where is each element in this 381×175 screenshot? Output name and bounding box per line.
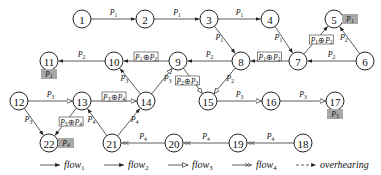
- edge-label: P2: [339, 33, 348, 43]
- svg-text:9: 9: [175, 56, 181, 68]
- edge-label: P4: [201, 132, 210, 142]
- svg-text:19: 19: [233, 138, 245, 150]
- svg-text:8: 8: [238, 56, 244, 68]
- edge-label: P2: [225, 74, 234, 84]
- node-3: 3: [200, 10, 218, 28]
- node-19: 19: [229, 134, 247, 152]
- node-4: 4: [261, 10, 279, 28]
- svg-text:P1 ⊕P2: P1 ⊕P2: [258, 53, 281, 63]
- svg-text:P3 ⊕P4: P3 ⊕P4: [102, 93, 125, 103]
- legend-label-flow1: flow1: [64, 159, 84, 171]
- edge-label: P2: [327, 50, 336, 60]
- svg-text:4: 4: [267, 14, 273, 26]
- network-coding-diagram: P1 P1 P1 P1 P1 P1 ⊕P2 P2 P2 P1 ⊕P2 P2 P2…: [0, 0, 381, 175]
- svg-text:20: 20: [169, 138, 181, 150]
- svg-text:21: 21: [107, 138, 118, 150]
- edge-label: P4: [266, 132, 275, 142]
- svg-text:11: 11: [44, 56, 55, 68]
- node-10: 10: [105, 52, 123, 70]
- svg-text:17: 17: [330, 96, 342, 108]
- svg-text:P1 ⊕P2: P1 ⊕P2: [310, 36, 333, 46]
- edge-label: P3: [120, 74, 129, 84]
- legend-label-flow4: flow4: [256, 159, 277, 171]
- legend: flow1flow2flow3flow4overhearing: [40, 159, 369, 171]
- svg-text:18: 18: [298, 138, 310, 150]
- svg-text:14: 14: [141, 96, 153, 108]
- node-15: 15: [199, 92, 217, 110]
- edge-label-boxed: P3 ⊕P4: [59, 117, 83, 127]
- decoded-tag-5: P1: [342, 14, 358, 24]
- node-7: 7: [289, 52, 307, 70]
- svg-text:15: 15: [203, 96, 215, 108]
- svg-text:16: 16: [266, 96, 278, 108]
- node-2: 2: [136, 10, 154, 28]
- edge-label: P2: [77, 50, 86, 60]
- node-11: 11: [40, 52, 58, 70]
- decoded-tag-11: P1: [41, 69, 57, 79]
- edge-label: P1: [172, 8, 181, 18]
- edge-label: P3: [298, 90, 307, 100]
- edge-label: P1: [274, 33, 283, 43]
- edge-label: P3: [163, 74, 172, 84]
- edge-label: P4: [138, 132, 147, 142]
- svg-text:7: 7: [295, 56, 301, 68]
- node-9: 9: [169, 52, 187, 70]
- edge-label: P1: [215, 33, 224, 43]
- svg-text:P3 ⊕P4: P3 ⊕P4: [59, 118, 82, 128]
- edge-label-boxed: P1 ⊕P2: [134, 52, 158, 62]
- edge-label: P4: [87, 115, 96, 125]
- svg-text:5: 5: [331, 14, 337, 26]
- node-17: 17: [326, 92, 344, 110]
- decoded-tag-17: P3: [327, 109, 343, 119]
- edge-label: P4: [130, 115, 139, 125]
- svg-text:10: 10: [109, 56, 121, 68]
- node-21: 21: [103, 134, 121, 152]
- svg-text:12: 12: [14, 96, 25, 108]
- node-22: 22: [40, 134, 58, 152]
- svg-text:P1 ⊕P2: P1 ⊕P2: [134, 53, 157, 63]
- node-20: 20: [165, 134, 183, 152]
- edge-label: P3: [24, 115, 33, 125]
- svg-text:P2 ⊕P3: P2 ⊕P3: [175, 77, 198, 87]
- edge-label: P3: [46, 90, 55, 100]
- node-12: 12: [10, 92, 28, 110]
- edge-label-boxed: P3 ⊕P4: [102, 92, 126, 102]
- edge-label-boxed: P2 ⊕P3: [175, 76, 199, 86]
- node-6: 6: [356, 52, 374, 70]
- svg-text:2: 2: [142, 14, 148, 26]
- edge-label: P3: [235, 90, 244, 100]
- node-16: 16: [262, 92, 280, 110]
- edge-label: P2: [205, 50, 214, 60]
- node-1: 1: [73, 10, 91, 28]
- svg-text:1: 1: [79, 14, 85, 26]
- node-5: 5: [325, 10, 343, 28]
- node-13: 13: [73, 92, 91, 110]
- node-18: 18: [294, 134, 312, 152]
- decoded-tag-22: P4: [58, 138, 74, 148]
- legend-label-flow3: flow3: [192, 159, 212, 171]
- svg-text:13: 13: [77, 96, 89, 108]
- node-14: 14: [137, 92, 155, 110]
- edge-label: P1: [235, 8, 244, 18]
- legend-label-flow2: flow2: [128, 159, 148, 171]
- edge-label-boxed: P1 ⊕P2: [258, 52, 282, 62]
- legend-label-overhearing: overhearing: [320, 159, 369, 170]
- edge-labels-layer: P1 P1 P1 P1 P1 P1 ⊕P2 P2 P2 P1 ⊕P2 P2 P2…: [24, 8, 348, 142]
- svg-text:22: 22: [44, 138, 55, 150]
- edge-label: P1: [109, 8, 118, 18]
- node-8: 8: [232, 52, 250, 70]
- svg-text:6: 6: [362, 56, 368, 68]
- svg-text:3: 3: [206, 14, 212, 26]
- edge-label-boxed: P1 ⊕P2: [310, 35, 334, 45]
